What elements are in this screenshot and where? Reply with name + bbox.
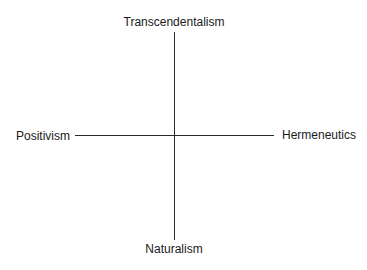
label-transcendentalism: Transcendentalism [124,15,225,29]
label-naturalism: Naturalism [145,242,202,256]
label-hermeneutics: Hermeneutics [282,128,356,142]
horizontal-axis-line [75,135,274,136]
quadrant-diagram: Transcendentalism Naturalism Positivism … [0,0,367,270]
label-positivism: Positivism [16,129,70,143]
vertical-axis-line [174,32,175,240]
